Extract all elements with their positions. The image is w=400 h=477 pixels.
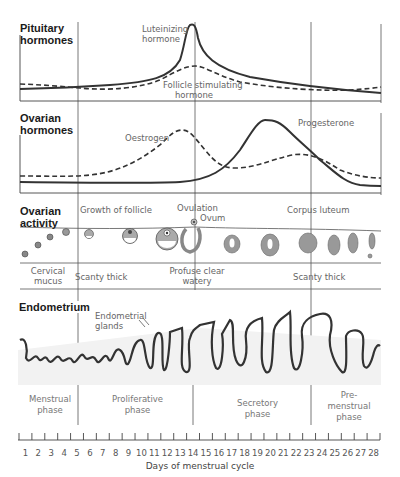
- pituitary-title: Pituitary hormones: [20, 22, 73, 46]
- menstrual-cycle-diagram: Pituitary hormones Luteinizing hormone F…: [0, 0, 400, 477]
- mucus-mid-line1: Profuse clear: [165, 266, 229, 276]
- cervical-mucus-line2: mucus: [28, 276, 68, 286]
- oestrogen-label: Oestrogen: [125, 133, 169, 143]
- axis-title: Days of menstrual cycle: [0, 461, 400, 471]
- phase-menstrual-line1: Menstrual: [22, 394, 78, 405]
- phase-secretory-line2: phase: [225, 409, 290, 420]
- day-label: 11: [147, 448, 161, 458]
- mucus-late-label: Scanty thick: [293, 272, 345, 282]
- day-label: 15: [199, 448, 213, 458]
- cervical-mucus-label: Cervical mucus: [28, 266, 68, 286]
- ovarian-hormones-title: Ovarian hormones: [20, 112, 73, 136]
- day-label: 10: [134, 448, 148, 458]
- glands-line1: Endometrial: [95, 311, 147, 321]
- cervical-mucus-line1: Cervical: [28, 266, 68, 276]
- glands-line2: glands: [95, 321, 147, 331]
- day-label: 26: [341, 448, 355, 458]
- oestrogen-curve: [20, 130, 381, 178]
- day-label: 24: [315, 448, 329, 458]
- phase-premenstrual-line1: Pre-: [318, 390, 380, 401]
- ovarian-hormones-axes: [20, 135, 381, 193]
- mucus-mid-label: Profuse clear watery: [165, 266, 229, 286]
- day-label: 9: [122, 448, 136, 458]
- day-label: 2: [31, 448, 45, 458]
- follicles: [22, 219, 375, 258]
- endometrium-title: Endometrium: [19, 301, 91, 313]
- fsh-label-line1: Follicle stimulating: [163, 80, 243, 90]
- day-label: 28: [367, 448, 381, 458]
- day-label: 7: [96, 448, 110, 458]
- day-label: 4: [57, 448, 71, 458]
- ovarian-activity-title-line1: Ovarian: [20, 205, 61, 217]
- day-label: 17: [225, 448, 239, 458]
- day-label: 12: [160, 448, 174, 458]
- ovulation-label: Ovulation: [177, 203, 218, 213]
- fsh-label-line2: hormone: [163, 90, 225, 100]
- day-label: 21: [276, 448, 290, 458]
- ovarian-activity-title-line2: activity: [20, 217, 61, 229]
- phase-menstrual: Menstrual phase: [22, 394, 78, 416]
- phase-secretory: Secretory phase: [225, 398, 290, 420]
- ovarian-hormones-title-line2: hormones: [20, 124, 73, 136]
- day-label: 3: [44, 448, 58, 458]
- day-axis: [18, 433, 380, 440]
- corpus-luteum-label: Corpus luteum: [287, 205, 350, 215]
- day-label: 8: [109, 448, 123, 458]
- day-label: 25: [328, 448, 342, 458]
- phase-proliferative: Proliferative phase: [100, 394, 175, 416]
- phase-premenstrual-line3: phase: [318, 412, 380, 423]
- pituitary-title-line2: hormones: [20, 34, 73, 46]
- day-label: 27: [354, 448, 368, 458]
- mucus-mid-line2: watery: [165, 276, 229, 286]
- phase-menstrual-line2: phase: [22, 405, 78, 416]
- day-label: 22: [289, 448, 303, 458]
- fsh-label: Follicle stimulating hormone: [163, 80, 243, 100]
- endometrial-glands-label: Endometrial glands: [95, 311, 147, 331]
- day-label: 20: [263, 448, 277, 458]
- ovarian-hormones-title-line1: Ovarian: [20, 112, 73, 124]
- phase-secretory-line1: Secretory: [225, 398, 290, 409]
- day-label: 18: [238, 448, 252, 458]
- growth-of-follicle-label: Growth of follicle: [80, 205, 152, 215]
- endometrium-graphic: [18, 312, 381, 385]
- phase-proliferative-line2: phase: [100, 405, 175, 416]
- pituitary-title-line1: Pituitary: [20, 22, 73, 34]
- day-label: 5: [70, 448, 84, 458]
- day-label: 23: [302, 448, 316, 458]
- day-label: 6: [83, 448, 97, 458]
- lh-label-line2: hormone: [142, 34, 188, 44]
- ovarian-activity-title: Ovarian activity: [20, 205, 61, 229]
- progesterone-label: Progesterone: [298, 118, 354, 128]
- day-label: 16: [212, 448, 226, 458]
- mucus-early-label: Scanty thick: [75, 272, 127, 282]
- progesterone-curve: [20, 120, 381, 186]
- ovum-label: Ovum: [200, 213, 225, 223]
- lh-label: Luteinizing hormone: [142, 24, 188, 44]
- phase-premenstrual: Pre- menstrual phase: [318, 390, 380, 423]
- day-label: 13: [173, 448, 187, 458]
- day-label: 19: [251, 448, 265, 458]
- phase-premenstrual-line2: menstrual: [318, 401, 380, 412]
- phase-proliferative-line1: Proliferative: [100, 394, 175, 405]
- lh-label-line1: Luteinizing: [142, 24, 188, 34]
- day-label: 1: [18, 448, 32, 458]
- day-label: 14: [186, 448, 200, 458]
